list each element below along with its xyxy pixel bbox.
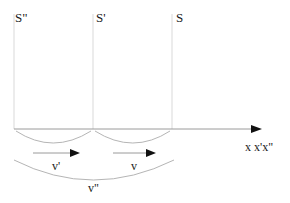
- velocity-label-v-double-prime: v": [88, 182, 99, 194]
- frame-label-s-prime: S': [96, 11, 106, 24]
- x-axis-arrowhead-icon: [251, 125, 262, 133]
- arc-v: [95, 131, 170, 143]
- velocity-addition-diagram: S" S' S x x'x" v' v v": [0, 0, 290, 203]
- arc-v-double-prime: [14, 160, 174, 180]
- diagram-canvas: [0, 0, 290, 203]
- velocity-label-v-prime: v': [52, 160, 60, 172]
- frame-label-s-double-prime: S": [15, 11, 28, 24]
- axis-label: x x'x": [245, 141, 273, 153]
- frame-label-s: S: [176, 11, 183, 24]
- velocity-arrow-v-prime-head-icon: [70, 149, 80, 157]
- velocity-label-v: v: [131, 160, 137, 172]
- velocity-arrow-v-head-icon: [146, 149, 156, 157]
- arc-v-prime: [16, 131, 91, 143]
